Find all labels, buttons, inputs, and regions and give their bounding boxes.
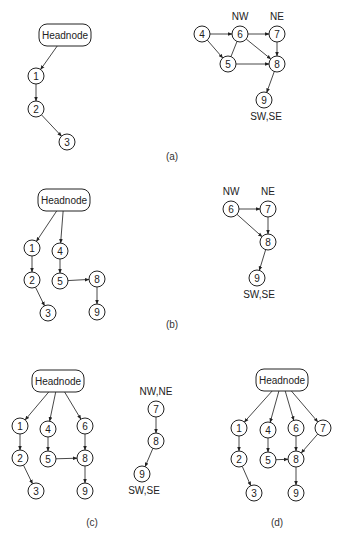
node-7: 7 (315, 420, 331, 436)
node-label: 8 (153, 436, 159, 447)
node-1: 1 (28, 68, 44, 84)
graph-c-1: Headnode14625839 (12, 370, 93, 499)
node-5: 5 (52, 273, 68, 289)
node-label: 8 (293, 454, 299, 465)
node-label: 1 (17, 421, 23, 432)
direction-tag: SW,SE (243, 289, 275, 300)
node-label: 6 (237, 29, 243, 40)
node-label: 8 (274, 59, 280, 70)
graph-c-2: 7NW,NE89SW,SE (128, 386, 173, 496)
edge-8-9 (145, 448, 153, 466)
edge-H-1 (244, 391, 272, 422)
node-label: Headnode (259, 375, 306, 386)
node-label: 6 (228, 204, 234, 215)
node-label: 9 (94, 307, 100, 318)
node-8: 8 (89, 271, 105, 287)
edge-4-5 (207, 40, 223, 58)
panel-caption-a: (a) (166, 151, 178, 162)
graph-b-2: 6NW7NE89SW,SE (223, 186, 276, 300)
node-6: 6 (223, 201, 239, 217)
node-1: 1 (12, 418, 28, 434)
node-label: 8 (265, 237, 271, 248)
node-1: 1 (231, 420, 247, 436)
graph-d-1: Headnode146725839 (231, 369, 331, 501)
edge-2-3 (35, 287, 44, 306)
node-4: 4 (194, 26, 210, 42)
node-2: 2 (231, 451, 247, 467)
node-label: 2 (236, 454, 242, 465)
edge-H-1 (25, 392, 49, 420)
node-label: 5 (225, 59, 231, 70)
node-label: 4 (57, 246, 63, 257)
node-label: 7 (153, 404, 159, 415)
graph-a-1: Headnode123 (28, 24, 91, 150)
node-label: Headnode (35, 376, 82, 387)
node-label: 5 (57, 276, 63, 287)
panel-caption-b: (b) (166, 319, 178, 330)
edge-7-8 (301, 434, 317, 453)
node-3: 3 (40, 305, 56, 321)
node-6: 6 (232, 26, 248, 42)
node-label: Headnode (42, 30, 89, 41)
node-label: 4 (199, 29, 205, 40)
node-8: 8 (260, 234, 276, 250)
node-1: 1 (24, 240, 40, 256)
panel-caption-d: (d) (271, 517, 283, 528)
node-4: 4 (52, 243, 68, 259)
node-2: 2 (28, 101, 44, 117)
node-9: 9 (288, 485, 304, 501)
direction-tag: NW (232, 11, 249, 22)
headnode: Headnode (39, 24, 91, 46)
node-2: 2 (24, 272, 40, 288)
node-3: 3 (59, 134, 75, 150)
node-9: 9 (77, 483, 93, 499)
node-label: 7 (274, 29, 280, 40)
node-label: 2 (17, 453, 23, 464)
headnode: Headnode (38, 189, 90, 211)
node-label: 4 (265, 425, 271, 436)
node-5: 5 (260, 452, 276, 468)
node-label: 9 (293, 488, 299, 499)
direction-tag: NW (223, 186, 240, 197)
node-9: 9 (89, 304, 105, 320)
node-label: 1 (33, 71, 39, 82)
graph-b-1: Headnode1425839 (24, 189, 105, 321)
node-label: 3 (33, 486, 39, 497)
edge-5-8 (68, 279, 89, 280)
node-7: 7 (260, 201, 276, 217)
node-6: 6 (77, 418, 93, 434)
node-label: 9 (261, 95, 267, 106)
edge-H-4 (270, 391, 279, 422)
node-label: 9 (82, 486, 88, 497)
node-7: 7 (269, 26, 285, 42)
node-6: 6 (288, 420, 304, 436)
direction-tag: NE (261, 186, 275, 197)
node-2: 2 (12, 450, 28, 466)
node-label: 5 (45, 454, 51, 465)
node-label: 6 (293, 423, 299, 434)
headnode: Headnode (256, 369, 308, 391)
node-4: 4 (260, 422, 276, 438)
node-5: 5 (220, 56, 236, 72)
node-label: 2 (33, 104, 39, 115)
edge-2-3 (23, 465, 32, 484)
edge-H-1 (36, 211, 56, 241)
node-label: 5 (265, 455, 271, 466)
edge-H-6 (285, 391, 294, 420)
panel-b: Headnode14258396NW7NE89SW,SE(b) (24, 186, 276, 330)
node-label: 6 (82, 421, 88, 432)
headnode: Headnode (32, 370, 84, 392)
node-4: 4 (40, 421, 56, 437)
node-9: 9 (134, 466, 150, 482)
edge-8-9 (267, 72, 275, 93)
direction-tag: NE (270, 11, 284, 22)
edge-2-3 (41, 115, 61, 136)
edge-H-4 (61, 211, 64, 243)
edge-8-9 (259, 250, 265, 271)
edge-H-4 (50, 392, 56, 421)
node-8: 8 (269, 56, 285, 72)
panel-c: Headnode146258397NW,NE89SW,SE(c) (12, 370, 173, 528)
node-8: 8 (77, 450, 93, 466)
node-label: 9 (139, 469, 145, 480)
node-label: 1 (236, 423, 242, 434)
